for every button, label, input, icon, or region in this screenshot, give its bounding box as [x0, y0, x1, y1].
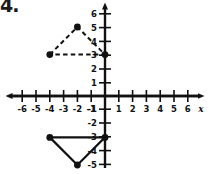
- coordinate-plane: -6 -5 -4 -3 -2 -1 1 2 3 4 5 6 6 5 4 3 2 …: [0, 0, 209, 174]
- x-tick-label: 5: [171, 104, 177, 114]
- y-tick-label: -1: [88, 104, 98, 114]
- x-tick-label: -4: [45, 104, 55, 114]
- x-tick-label: 2: [130, 104, 136, 114]
- y-tick-label: 5: [91, 23, 97, 33]
- x-axis-label: x: [197, 104, 204, 114]
- image-vertex-point: [102, 134, 109, 141]
- y-tick-label: -5: [88, 160, 98, 170]
- x-tick-label: -5: [31, 104, 41, 114]
- graph-problem-figure: 4.: [0, 0, 209, 174]
- x-tick-label: 3: [143, 104, 149, 114]
- y-tick-label: 6: [91, 9, 97, 19]
- x-tick-label: 4: [157, 104, 163, 114]
- x-tick-label: 1: [116, 104, 122, 114]
- x-tick-label: -2: [73, 104, 83, 114]
- y-tick-label: -2: [88, 118, 98, 128]
- preimage-vertex-point: [46, 51, 53, 58]
- preimage-vertex-point: [102, 51, 109, 58]
- preimage-vertex-point: [74, 24, 81, 31]
- image-vertex-point: [74, 162, 81, 169]
- image-vertex-point: [46, 134, 53, 141]
- x-tick-label: 6: [185, 104, 191, 114]
- x-tick-label: -6: [17, 104, 27, 114]
- x-tick-label: -3: [59, 104, 69, 114]
- y-tick-label: 1: [91, 78, 97, 88]
- y-tick-label: 2: [91, 64, 97, 74]
